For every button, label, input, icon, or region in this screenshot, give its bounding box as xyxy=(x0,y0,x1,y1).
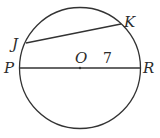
chord-jk xyxy=(26,24,121,43)
label-r: R xyxy=(142,59,154,77)
circle-diagram: J K P R O 7 xyxy=(0,0,160,138)
label-radius-7: 7 xyxy=(103,50,112,66)
label-o: O xyxy=(75,49,87,67)
label-k: K xyxy=(123,13,136,31)
center-point-o xyxy=(79,67,81,69)
label-j: J xyxy=(9,35,19,53)
label-p: P xyxy=(3,59,15,77)
